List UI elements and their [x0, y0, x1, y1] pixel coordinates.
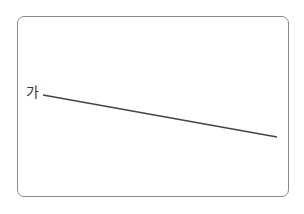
line-label: 가 [26, 81, 39, 101]
line-layer [0, 0, 304, 214]
sloped-line [43, 95, 277, 137]
